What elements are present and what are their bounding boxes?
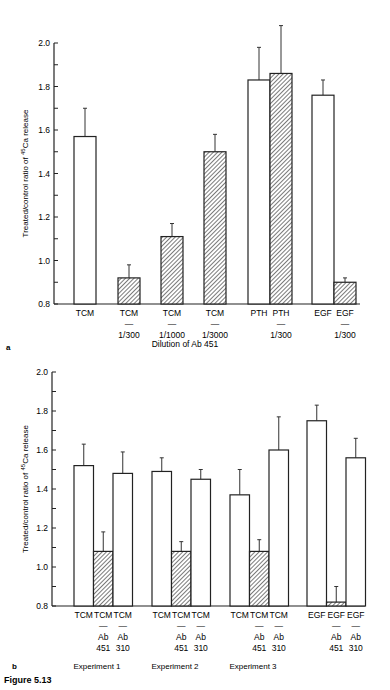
x-tick-label: 451 — [174, 643, 188, 653]
bar — [74, 108, 96, 304]
x-tick-label: TCM — [163, 308, 181, 318]
bar — [113, 452, 133, 606]
x-tick-label: Ab — [351, 632, 362, 642]
x-tick-label: 1/300 — [118, 330, 140, 340]
x-tick-label: TCM — [270, 610, 288, 620]
bar — [334, 278, 356, 304]
bar — [74, 444, 94, 606]
group-label: Experiment 3 — [229, 662, 277, 671]
bar — [312, 80, 334, 304]
x-tick-label: — — [99, 621, 108, 631]
y-tick-label: 1.6 — [38, 125, 50, 135]
chart-panel-b: 0.81.01.21.41.61.82.0Treated/control rat… — [12, 367, 366, 671]
x-tick-label: Ab — [274, 632, 285, 642]
hatched-bar — [327, 602, 347, 606]
open-bar — [269, 450, 289, 606]
y-axis-label: Treated/control ratio of 45Ca release — [20, 425, 30, 553]
hatched-bar — [334, 282, 356, 304]
bar — [191, 470, 211, 607]
y-tick-label: 2.0 — [36, 367, 48, 377]
bar — [346, 438, 366, 606]
x-tick-label: — — [211, 319, 220, 329]
x-tick-label: TCM — [231, 610, 249, 620]
bar — [250, 540, 270, 606]
bar — [118, 265, 140, 304]
x-tick-label: TCM — [114, 610, 132, 620]
x-tick-label: EGF — [314, 308, 331, 318]
open-bar — [248, 80, 270, 304]
bar — [307, 405, 327, 606]
x-tick-label: TCM — [206, 308, 224, 318]
hatched-bar — [270, 73, 292, 304]
x-tick-label: EGF — [328, 610, 345, 620]
x-tick-label: 451 — [252, 643, 266, 653]
bar — [270, 26, 292, 304]
x-tick-label: TCM — [250, 610, 268, 620]
y-tick-label: 1.4 — [36, 484, 48, 494]
bar — [152, 458, 172, 606]
y-tick-label: 1.2 — [36, 523, 48, 533]
bar — [172, 542, 192, 606]
x-tick-label: TCM — [75, 610, 93, 620]
x-tick-label: TCM — [94, 610, 112, 620]
open-bar — [152, 471, 172, 606]
x-tick-label: TCM — [120, 308, 138, 318]
bar — [230, 470, 250, 607]
x-tick-label: Ab — [196, 632, 207, 642]
y-tick-label: 1.0 — [36, 562, 48, 572]
y-tick-label: 1.8 — [38, 82, 50, 92]
open-bar — [346, 458, 366, 606]
x-tick-label: 451 — [329, 643, 343, 653]
x-tick-label: 310 — [194, 643, 208, 653]
x-tick-label: PTH — [273, 308, 290, 318]
hatched-bar — [161, 237, 183, 304]
open-bar — [74, 466, 94, 606]
open-bar — [74, 137, 96, 304]
open-bar — [191, 479, 211, 606]
x-tick-label: — — [197, 621, 206, 631]
y-tick-label: 2.0 — [38, 38, 50, 48]
y-tick-label: 1.4 — [38, 169, 50, 179]
group-label: Experiment 1 — [73, 662, 121, 671]
y-tick-label: 1.2 — [38, 212, 50, 222]
x-tick-label: — — [352, 621, 361, 631]
hatched-bar — [94, 551, 114, 606]
open-bar — [307, 421, 327, 606]
bar — [161, 224, 183, 304]
x-tick-label: — — [125, 319, 134, 329]
x-tick-label: — — [275, 621, 284, 631]
x-tick-label: — — [341, 319, 350, 329]
hatched-bar — [204, 152, 226, 304]
bar — [327, 587, 347, 607]
y-tick-label: 0.8 — [36, 601, 48, 611]
x-tick-label: — — [332, 621, 341, 631]
y-axis-label: Treated/control ratio of 45Ca release — [20, 109, 30, 237]
x-tick-label: TCM — [192, 610, 210, 620]
x-tick-label: 451 — [96, 643, 110, 653]
x-tick-label: — — [277, 319, 286, 329]
x-tick-label: — — [168, 319, 177, 329]
x-tick-label: — — [177, 621, 186, 631]
hatched-bar — [172, 551, 192, 606]
panel-label-a: a — [6, 343, 11, 352]
hatched-bar — [250, 551, 270, 606]
figure-label: Figure 5.13 — [4, 675, 52, 685]
y-tick-label: 0.8 — [38, 299, 50, 309]
x-tick-label: Ab — [98, 632, 109, 642]
x-tick-label: TCM — [153, 610, 171, 620]
x-tick-label: TCM — [76, 308, 94, 318]
open-bar — [113, 473, 133, 606]
x-tick-label: 1/300 — [334, 330, 356, 340]
x-tick-label: 310 — [116, 643, 130, 653]
x-tick-label: 310 — [272, 643, 286, 653]
x-tick-label: EGF — [336, 308, 353, 318]
x-tick-label: — — [119, 621, 128, 631]
figure: 0.81.01.21.41.61.82.0Treated/control rat… — [0, 0, 390, 690]
open-bar — [230, 495, 250, 606]
y-tick-label: 1.8 — [36, 406, 48, 416]
panel-label-b: b — [12, 662, 17, 671]
x-tick-label: — — [255, 621, 264, 631]
chart-panel-a: 0.81.01.21.41.61.82.0Treated/control rat… — [6, 26, 360, 352]
x-tick-label: PTH — [251, 308, 268, 318]
bar — [94, 532, 114, 606]
